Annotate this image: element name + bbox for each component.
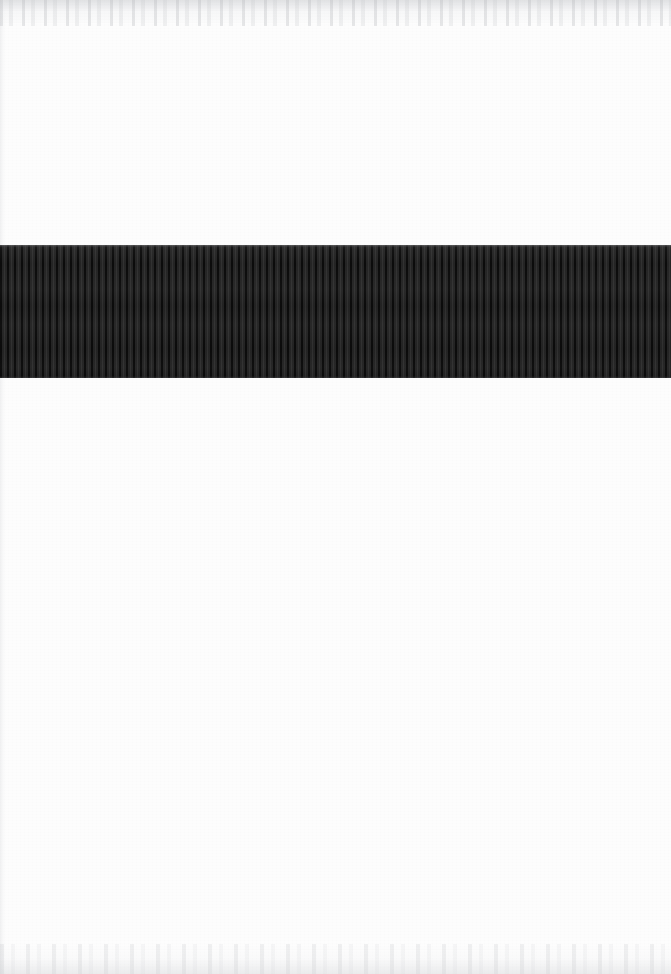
scanned-page <box>0 0 671 974</box>
band-stripe-pattern <box>0 245 671 378</box>
dark-striped-band <box>0 245 671 378</box>
paper-background <box>0 0 671 974</box>
